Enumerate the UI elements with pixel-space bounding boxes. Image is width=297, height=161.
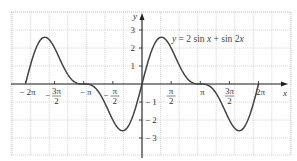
equation-part: = 2 sin xyxy=(176,34,207,44)
x-tick-label: − π xyxy=(80,87,92,97)
x-tick-label: − 2π xyxy=(19,87,36,97)
y-tick-label: 3 xyxy=(131,25,136,35)
x-tick-label-denominator: 2 xyxy=(169,96,174,106)
x-tick-label-numerator: 3π xyxy=(52,86,62,96)
equation-x2: x xyxy=(238,34,244,44)
y-tick-label: − 1 xyxy=(145,97,157,107)
x-axis-label: x xyxy=(282,88,287,98)
y-axis-label: y xyxy=(132,11,137,21)
equation-annotation: y = 2 sin x + sin 2x xyxy=(171,34,244,44)
x-tick-label-sign: − xyxy=(103,90,108,100)
y-tick-label: − 2 xyxy=(145,115,157,125)
y-axis-arrow-icon xyxy=(140,13,145,20)
x-tick-label-sign: − xyxy=(45,90,50,100)
x-tick-label-numerator: 3π xyxy=(225,86,235,96)
x-tick-label-denominator: 2 xyxy=(54,96,59,106)
function-plot: x y − 2π−3π2− π−π2π2π3π22π321− 1− 2− 3 y… xyxy=(0,0,297,161)
equation-part-2: + sin 2 xyxy=(211,34,240,44)
y-tick-label: 1 xyxy=(131,61,136,71)
x-axis-arrow-icon xyxy=(281,82,288,87)
x-tick-label-numerator: π xyxy=(113,86,118,96)
y-tick-label: 2 xyxy=(131,43,136,53)
y-tick-label: − 3 xyxy=(145,133,157,143)
x-tick-label-numerator: π xyxy=(169,86,174,96)
x-tick-label: π xyxy=(200,87,205,97)
x-tick-label-denominator: 2 xyxy=(227,96,232,106)
x-tick-label-denominator: 2 xyxy=(113,96,118,106)
